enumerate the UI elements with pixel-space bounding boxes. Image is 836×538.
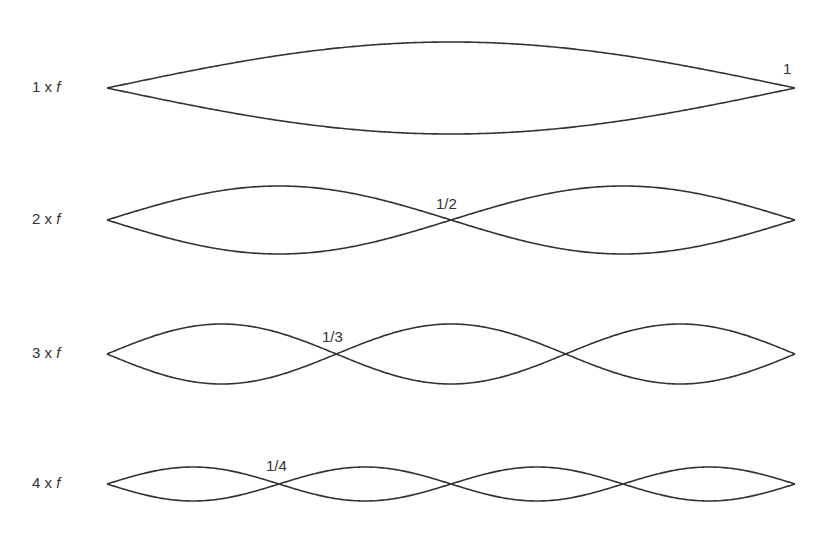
- frequency-variable: f: [56, 210, 60, 227]
- frequency-variable: f: [56, 78, 60, 95]
- label-prefix: 2 x: [32, 210, 56, 227]
- wave-envelope-h1-upper: [107, 42, 795, 88]
- row-label-1: 1 x f: [32, 78, 60, 95]
- node-label-1-3: 1/3: [322, 328, 343, 345]
- node-label-1: 1: [783, 60, 791, 77]
- node-label-1-2: 1/2: [436, 195, 457, 212]
- wave-envelope-h1-lower: [107, 88, 795, 134]
- label-prefix: 1 x: [32, 78, 56, 95]
- frequency-variable: f: [56, 344, 60, 361]
- standing-waves-canvas: [0, 0, 836, 538]
- wave-envelope-h3-lower: [107, 324, 795, 384]
- label-prefix: 3 x: [32, 344, 56, 361]
- wave-envelope-h4-lower: [107, 467, 795, 501]
- label-prefix: 4 x: [32, 474, 56, 491]
- node-label-1-4: 1/4: [266, 457, 287, 474]
- frequency-variable: f: [56, 474, 60, 491]
- row-label-2: 2 x f: [32, 210, 60, 227]
- row-label-4: 4 x f: [32, 474, 60, 491]
- row-label-3: 3 x f: [32, 344, 60, 361]
- wave-envelope-h3-upper: [107, 324, 795, 384]
